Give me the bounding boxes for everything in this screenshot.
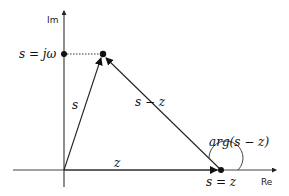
complex-plane-diagram: Im Re s = jω s s − z z arg(s − z) s = z [0,0,289,196]
imag-axis-label: Im [47,15,58,25]
z-vector-label: z [113,156,121,170]
point-z-dot [218,167,224,173]
vector-s [64,58,101,170]
point-s-dot [100,51,106,57]
point-jw-dot [61,51,67,57]
s-eq-z-label: s = z [206,175,237,189]
s-vector-label: s [72,98,78,112]
s-minus-z-label: s − z [135,95,166,109]
vector-s-minus-z [106,58,221,170]
s-jw-label: s = jω [19,47,57,61]
arg-label: arg(s − z) [209,135,269,149]
real-axis-label: Re [261,177,273,187]
